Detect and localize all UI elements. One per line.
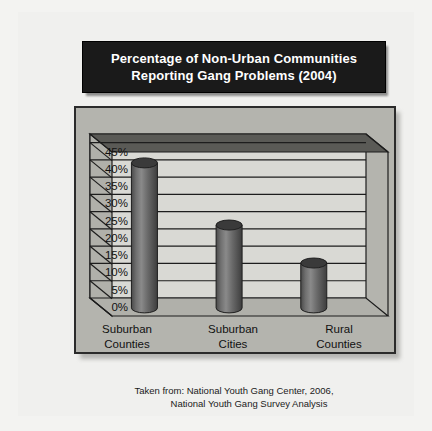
- chart-title-line-2: Reporting Gang Problems (2004): [131, 67, 336, 84]
- x-tick-label-suburban-cities: SuburbanCities: [180, 322, 286, 356]
- x-tick-label-rural-counties: RuralCounties: [286, 322, 392, 356]
- chart-title-banner: Percentage of Non-Urban Communities Repo…: [82, 41, 386, 93]
- x-tick-label-line: Rural: [286, 322, 392, 337]
- chart-frame: 0%5%10%15%20%25%30%35%40%45%: [74, 106, 396, 354]
- source-caption-line-2: National Youth Gang Survey Analysis: [36, 397, 432, 410]
- y-tick-label-0%: 0%: [86, 301, 128, 313]
- y-tick-label-25%: 25%: [86, 215, 128, 227]
- x-tick-label-line: Counties: [74, 337, 180, 352]
- bar-rural-counties[interactable]: [301, 258, 327, 313]
- bar-top-ellipse: [131, 158, 157, 168]
- bar-suburban-counties[interactable]: [131, 158, 157, 313]
- chart-card: Percentage of Non-Urban Communities Repo…: [18, 12, 414, 416]
- source-caption: Taken from: National Youth Gang Center, …: [36, 384, 432, 410]
- bar-top-ellipse: [216, 220, 242, 230]
- y-tick-label-20%: 20%: [86, 232, 128, 244]
- bar-top-ellipse: [301, 258, 327, 268]
- x-tick-label-line: Suburban: [74, 322, 180, 337]
- x-axis-tick-labels: SuburbanCountiesSuburbanCitiesRuralCount…: [74, 322, 392, 356]
- y-tick-label-15%: 15%: [86, 249, 128, 261]
- y-tick-label-45%: 45%: [86, 146, 128, 158]
- x-tick-label-suburban-counties: SuburbanCounties: [74, 322, 180, 356]
- y-tick-label-5%: 5%: [86, 284, 128, 296]
- y-axis-tick-labels: 0%5%10%15%20%25%30%35%40%45%: [82, 108, 128, 352]
- bar-suburban-cities[interactable]: [216, 220, 242, 313]
- bar-body: [216, 225, 242, 313]
- x-tick-label-line: Counties: [286, 337, 392, 352]
- y-tick-label-30%: 30%: [86, 197, 128, 209]
- x-tick-label-line: Suburban: [180, 322, 286, 337]
- y-tick-label-40%: 40%: [86, 163, 128, 175]
- chart-page: Percentage of Non-Urban Communities Repo…: [0, 0, 432, 431]
- chart-title-line-1: Percentage of Non-Urban Communities: [111, 50, 357, 67]
- y-tick-label-10%: 10%: [86, 266, 128, 278]
- x-tick-label-line: Cities: [180, 337, 286, 352]
- bar-body: [131, 163, 157, 313]
- source-caption-line-1: Taken from: National Youth Gang Center, …: [36, 384, 432, 397]
- y-tick-label-35%: 35%: [86, 180, 128, 192]
- bar-body: [301, 263, 327, 313]
